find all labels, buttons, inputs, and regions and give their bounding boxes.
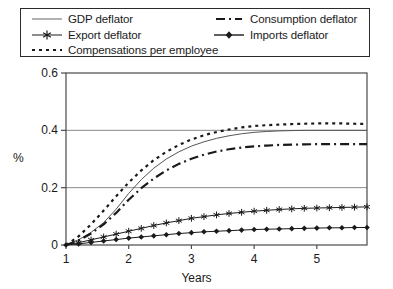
x-tick-label: 1 xyxy=(63,252,70,266)
legend-item-export-deflator: Export deflator xyxy=(31,29,141,41)
line-chart-svg: 00.20.40.612345 xyxy=(0,60,393,289)
y-tick-label: 0.2 xyxy=(41,181,58,195)
x-axis-label: Years xyxy=(0,271,393,285)
diamond-marker-icon xyxy=(289,226,295,232)
legend-item-consumption-deflator: Consumption deflator xyxy=(213,13,357,25)
legend-label-compensations-per-employee: Compensations per employee xyxy=(68,44,218,56)
diamond-marker-icon xyxy=(301,226,307,232)
y-tick-label: 0.4 xyxy=(41,123,58,137)
diamond-marker-icon xyxy=(176,231,182,237)
diamond-marker-icon xyxy=(276,226,282,232)
diamond-marker-icon xyxy=(201,229,207,235)
legend-label-gdp-deflator: GDP deflator xyxy=(68,13,133,25)
dotted-line-swatch-icon xyxy=(31,44,63,56)
legend-label-consumption-deflator: Consumption deflator xyxy=(250,13,357,25)
chart-plot-area: 00.20.40.612345 xyxy=(0,60,393,289)
asterisk-line-swatch-icon xyxy=(31,29,63,41)
x-tick-label: 3 xyxy=(188,252,195,266)
legend-item-compensations-per-employee: Compensations per employee xyxy=(31,44,218,56)
diamond-marker-icon xyxy=(239,227,245,233)
diamond-marker-icon xyxy=(214,228,220,234)
diamond-marker-icon xyxy=(138,234,144,240)
diamond-marker-icon xyxy=(151,233,157,239)
diamond-marker-icon xyxy=(251,227,257,233)
diamond-marker-icon xyxy=(113,237,119,243)
diamond-marker-icon xyxy=(264,226,270,232)
legend-item-gdp-deflator: GDP deflator xyxy=(31,13,133,25)
y-axis-label: % xyxy=(13,151,24,165)
diamond-marker-icon xyxy=(164,232,170,238)
solid-thin-line-swatch-icon xyxy=(31,13,63,25)
diamond-marker-icon xyxy=(339,225,345,231)
diamond-marker-icon xyxy=(189,230,195,236)
diamond-marker-icon xyxy=(226,228,232,234)
series-line-4 xyxy=(66,123,367,245)
chart-page: GDP deflator Export deflator xyxy=(0,0,393,289)
x-tick-label: 2 xyxy=(125,252,132,266)
diamond-marker-icon xyxy=(352,225,358,231)
legend-label-export-deflator: Export deflator xyxy=(68,29,141,41)
x-tick-label: 4 xyxy=(251,252,258,266)
diamond-marker-icon xyxy=(314,225,320,231)
legend-item-imports-deflator: Imports deflator xyxy=(213,29,328,41)
dash-dot-line-swatch-icon xyxy=(213,13,245,25)
y-tick-label: 0.6 xyxy=(41,66,58,80)
diamond-marker-icon xyxy=(101,238,107,244)
legend-label-imports-deflator: Imports deflator xyxy=(250,29,328,41)
diamond-marker-icon xyxy=(126,235,132,241)
diamond-line-swatch-icon xyxy=(213,29,245,41)
diamond-marker-icon xyxy=(364,225,370,231)
diamond-marker-icon xyxy=(327,225,333,231)
chart-legend: GDP deflator Export deflator xyxy=(20,8,370,57)
y-tick-label: 0 xyxy=(51,238,58,252)
x-tick-label: 5 xyxy=(313,252,320,266)
